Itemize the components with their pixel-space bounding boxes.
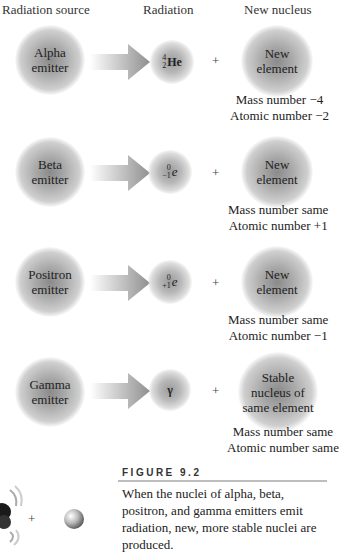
atomic-number: +1 — [162, 282, 171, 290]
product-label-line1: New — [265, 157, 290, 172]
arrow-icon — [90, 44, 150, 80]
product-label-line2: element — [256, 282, 297, 297]
header-new-nucleus: New nucleus — [244, 2, 312, 18]
product-label-line1: New — [265, 267, 290, 282]
mass-change: Mass number same — [228, 202, 328, 217]
plus-sign: + — [212, 275, 219, 291]
product-label-line2: element — [256, 61, 297, 76]
positron-nuclide-symbol: 0+1e — [162, 274, 177, 290]
mass-change: Mass number same — [233, 424, 333, 439]
electron-nuclide-symbol: 0−1e — [162, 164, 177, 180]
particle-symbol: e — [172, 164, 178, 180]
figure-title: FIGURE 9.2 — [122, 467, 201, 478]
stable-nucleus-sphere: Stablenucleus ofsame element — [238, 352, 318, 432]
new-element-sphere: Newelement — [241, 246, 313, 318]
gamma-emitter-sphere: Gammaemitter — [15, 357, 85, 427]
plus-sign: + — [212, 165, 219, 181]
arrow-icon — [90, 155, 150, 191]
atomic-change: Atomic number −2 — [230, 108, 329, 123]
beta-particle-sphere: 0−1e — [148, 150, 192, 194]
product-label-line2: nucleus of — [251, 385, 305, 400]
emitter-label-line2: emitter — [32, 392, 69, 407]
mass-change: Mass number same — [228, 312, 328, 327]
plus-sign: + — [212, 53, 219, 69]
plus-sign: + — [28, 511, 35, 527]
gamma-symbol: γ — [167, 383, 173, 398]
particle-ball-icon — [63, 508, 85, 530]
alpha-particle-sphere: 42He — [150, 40, 194, 84]
emitting-nucleus-illustration — [0, 482, 30, 546]
product-label-line3: same element — [242, 400, 313, 415]
product-label-line2: element — [256, 172, 297, 187]
mass-change: Mass number −4 — [236, 92, 324, 107]
alpha-emitter-sphere: Alphaemitter — [15, 25, 85, 95]
figure-caption: When the nuclei of alpha, beta, positron… — [122, 485, 322, 553]
positron-particle-sphere: 0+1e — [148, 260, 192, 304]
new-element-sphere: Newelement — [241, 136, 313, 208]
particle-symbol: e — [172, 274, 178, 290]
product-label-line1: New — [265, 46, 290, 61]
nuclear-change-text: Mass number sameAtomic number −1 — [228, 312, 328, 344]
arrow-icon — [90, 373, 150, 409]
plus-sign: + — [212, 383, 219, 399]
emitter-label-line2: emitter — [32, 172, 69, 187]
atomic-change: Atomic number +1 — [229, 218, 328, 233]
arrow-icon — [90, 265, 150, 301]
atomic-number: −1 — [162, 172, 171, 180]
atomic-change: Atomic number −1 — [229, 328, 328, 343]
nuclear-change-text: Mass number −4Atomic number −2 — [230, 92, 329, 124]
nuclear-change-text: Mass number sameAtomic number +1 — [228, 202, 328, 234]
header-radiation: Radiation — [143, 2, 194, 18]
emitter-label-line1: Alpha — [34, 45, 66, 60]
gamma-ray-sphere: γ — [149, 369, 191, 411]
helium-nuclide-symbol: 42He — [162, 54, 182, 70]
atomic-change: Atomic number same — [227, 440, 339, 455]
atomic-number: 2 — [162, 62, 166, 70]
element-symbol: He — [167, 55, 182, 70]
emitter-label-line1: Gamma — [29, 377, 70, 392]
emitter-label-line1: Positron — [28, 267, 71, 282]
figure-divider — [118, 480, 327, 482]
new-element-sphere: Newelement — [241, 25, 313, 97]
emitter-label-line1: Beta — [38, 157, 62, 172]
emitter-label-line2: emitter — [32, 282, 69, 297]
header-radiation-source: Radiation source — [2, 2, 90, 18]
nuclear-change-text: Mass number sameAtomic number same — [227, 424, 339, 456]
beta-emitter-sphere: Betaemitter — [15, 137, 85, 207]
product-label-line1: Stable — [262, 370, 295, 385]
positron-emitter-sphere: Positronemitter — [15, 247, 85, 317]
emitter-label-line2: emitter — [32, 60, 69, 75]
